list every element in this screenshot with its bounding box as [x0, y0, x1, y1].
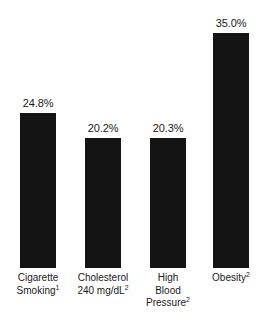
footnote-marker: 2 [125, 283, 129, 290]
bar-chart: 24.8% 20.2% 20.3% 35.0% Cigarette Smokin… [0, 0, 264, 326]
footnote-marker: 2 [186, 296, 190, 303]
bar-group-cholesterol[interactable]: 20.2% [85, 122, 121, 268]
category-labels-area: Cigarette Smoking1 Cholesterol 240 mg/dL… [0, 268, 264, 326]
category-label-line: Cholesterol [66, 272, 140, 285]
bar-rect[interactable] [85, 138, 121, 268]
category-label-line: Blood [131, 285, 205, 298]
footnote-marker: 1 [56, 283, 60, 290]
footnote-marker: 2 [246, 271, 250, 278]
bar-value-label: 20.2% [88, 122, 119, 135]
bar-group-cigarette-smoking[interactable]: 24.8% [20, 97, 56, 268]
bar-value-label: 35.0% [216, 17, 247, 30]
bar-group-high-blood-pressure[interactable]: 20.3% [150, 122, 186, 268]
bar-rect[interactable] [213, 33, 249, 268]
bar-group-obesity[interactable]: 35.0% [213, 17, 249, 268]
category-label-obesity: Obesity2 [194, 272, 264, 285]
bar-rect[interactable] [20, 113, 56, 268]
category-label-line: Obesity2 [194, 272, 264, 285]
bar-rect[interactable] [150, 138, 186, 268]
bar-value-label: 24.8% [23, 97, 54, 110]
category-label-line: Smoking1 [1, 285, 75, 298]
category-label-line: Pressure2 [131, 297, 205, 310]
category-label-line: 240 mg/dL2 [66, 285, 140, 298]
category-label-cigarette-smoking: Cigarette Smoking1 [1, 272, 75, 297]
plot-area: 24.8% 20.2% 20.3% 35.0% [0, 0, 264, 268]
category-label-cholesterol: Cholesterol 240 mg/dL2 [66, 272, 140, 297]
bar-value-label: 20.3% [153, 122, 184, 135]
category-label-line: Cigarette [1, 272, 75, 285]
